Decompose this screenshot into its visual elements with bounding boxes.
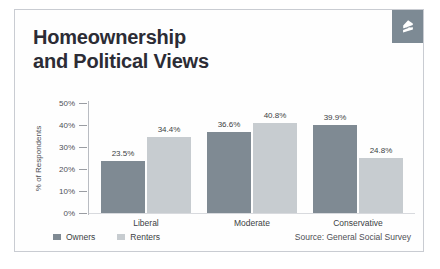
- y-tick-label-10: 10%: [59, 187, 75, 196]
- y-tick-label-20: 20%: [59, 165, 75, 174]
- bar-value-renters-liberal: 34.4%: [158, 125, 181, 134]
- legend-item-owners[interactable]: Owners: [53, 232, 95, 242]
- y-tick-mark-40: [79, 125, 87, 126]
- bar-owners-liberal[interactable]: 23.5%: [101, 161, 145, 213]
- legend-label-renters: Renters: [130, 232, 160, 242]
- y-tick-label-30: 30%: [59, 143, 75, 152]
- bar-group-liberal: 23.5% 34.4%: [101, 103, 191, 213]
- y-tick-label-0: 0%: [63, 209, 75, 218]
- y-tick-label-50: 50%: [59, 99, 75, 108]
- bar-value-renters-moderate: 40.8%: [264, 111, 287, 120]
- bar-renters-moderate[interactable]: 40.8%: [253, 123, 297, 213]
- page-title: Homeownership and Political Views: [33, 26, 333, 73]
- bar-owners-moderate[interactable]: 36.6%: [207, 132, 251, 213]
- title-line-2: and Political Views: [33, 50, 333, 74]
- y-axis-label: % of Respondents: [33, 103, 45, 213]
- y-tick-mark-20: [79, 169, 87, 170]
- bar-group-conservative: 39.9% 24.8%: [313, 103, 403, 213]
- y-tick-label-40: 40%: [59, 121, 75, 130]
- x-tick-label-conservative: Conservative: [313, 218, 403, 228]
- y-tick-mark-30: [79, 147, 87, 148]
- chart-card: Homeownership and Political Views % of R…: [14, 9, 424, 252]
- y-axis-label-text: % of Respondents: [35, 125, 44, 190]
- x-axis-baseline: [89, 213, 415, 214]
- bar-value-owners-moderate: 36.6%: [218, 120, 241, 129]
- source-note: Source: General Social Survey: [295, 232, 411, 242]
- bar-group-moderate: 36.6% 40.8%: [207, 103, 297, 213]
- y-tick-mark-0: [79, 213, 87, 214]
- legend-label-owners: Owners: [66, 232, 95, 242]
- bar-renters-conservative[interactable]: 24.8%: [359, 158, 403, 213]
- legend: Owners Renters: [53, 232, 160, 242]
- bar-value-renters-conservative: 24.8%: [370, 146, 393, 155]
- legend-swatch-renters: [117, 234, 125, 240]
- legend-swatch-owners: [53, 234, 61, 240]
- plot-area: 23.5% 34.4% 36.6% 40.8% 39.9% 24.8%: [89, 103, 415, 213]
- y-tick-mark-10: [79, 191, 87, 192]
- y-tick-mark-50: [79, 103, 87, 104]
- bar-value-owners-conservative: 39.9%: [324, 113, 347, 122]
- zillow-logo: [392, 10, 423, 43]
- bar-value-owners-liberal: 23.5%: [112, 149, 135, 158]
- title-line-1: Homeownership: [33, 26, 333, 50]
- bar-renters-liberal[interactable]: 34.4%: [147, 137, 191, 213]
- x-tick-label-liberal: Liberal: [101, 218, 191, 228]
- legend-item-renters[interactable]: Renters: [117, 232, 160, 242]
- x-tick-label-moderate: Moderate: [207, 218, 297, 228]
- bar-owners-conservative[interactable]: 39.9%: [313, 125, 357, 213]
